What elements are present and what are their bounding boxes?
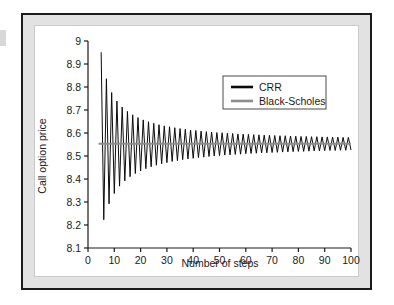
y-tick-label: 8.9: [66, 58, 81, 70]
y-tick-label: 8.2: [66, 219, 81, 231]
y-tick-label: 8.3: [66, 196, 81, 208]
y-tick-label: 8.8: [66, 81, 81, 93]
y-axis-title: Call option price: [36, 118, 48, 193]
x-tick-label: 20: [135, 254, 147, 266]
x-tick-label: 90: [319, 254, 331, 266]
y-tick-label: 8.7: [66, 104, 81, 116]
y-tick-label: 8.5: [66, 150, 81, 162]
x-tick-label: 70: [266, 254, 278, 266]
page-edge-artifact: [0, 30, 6, 46]
chart-legend: CRRBlack-Scholes: [223, 76, 326, 109]
figure-inner-panel: 8.18.28.38.48.58.68.78.88.99 01020304050…: [34, 25, 359, 277]
y-tick-label: 8.4: [66, 173, 81, 185]
x-tick-label: 10: [108, 254, 120, 266]
x-axis-title: Number of steps: [181, 257, 258, 269]
x-tick-label: 30: [161, 254, 173, 266]
x-tick-label: 80: [293, 254, 305, 266]
y-tick-label: 8.6: [66, 127, 81, 139]
x-tick-label: 100: [342, 254, 360, 266]
chart-plot-area: 8.18.28.38.48.58.68.78.88.99 01020304050…: [35, 26, 358, 276]
y-tick-label: 9: [75, 35, 81, 47]
legend-label-black-scholes: Black-Scholes: [259, 95, 326, 107]
legend-label-crr: CRR: [259, 81, 282, 93]
y-tick-label: 8.1: [66, 242, 81, 254]
x-tick-label: 0: [85, 254, 91, 266]
y-axis-tick-labels: 8.18.28.38.48.58.68.78.88.99: [66, 35, 81, 254]
convergence-chart: 8.18.28.38.48.58.68.78.88.99 01020304050…: [35, 26, 362, 280]
figure-frame: 8.18.28.38.48.58.68.78.88.99 01020304050…: [21, 13, 372, 290]
